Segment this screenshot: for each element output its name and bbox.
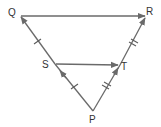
- label-q: Q: [8, 7, 16, 18]
- label-t: T: [121, 61, 127, 72]
- segment-st: [56, 64, 118, 65]
- label-s: S: [42, 59, 49, 70]
- label-p: P: [89, 114, 96, 125]
- triangle-diagram: Q R S T P: [0, 0, 161, 127]
- label-r: R: [146, 6, 153, 17]
- segment-ps-arrow: [60, 71, 66, 79]
- segment-pt-arrow: [114, 68, 118, 75]
- segment-tr: [120, 18, 145, 65]
